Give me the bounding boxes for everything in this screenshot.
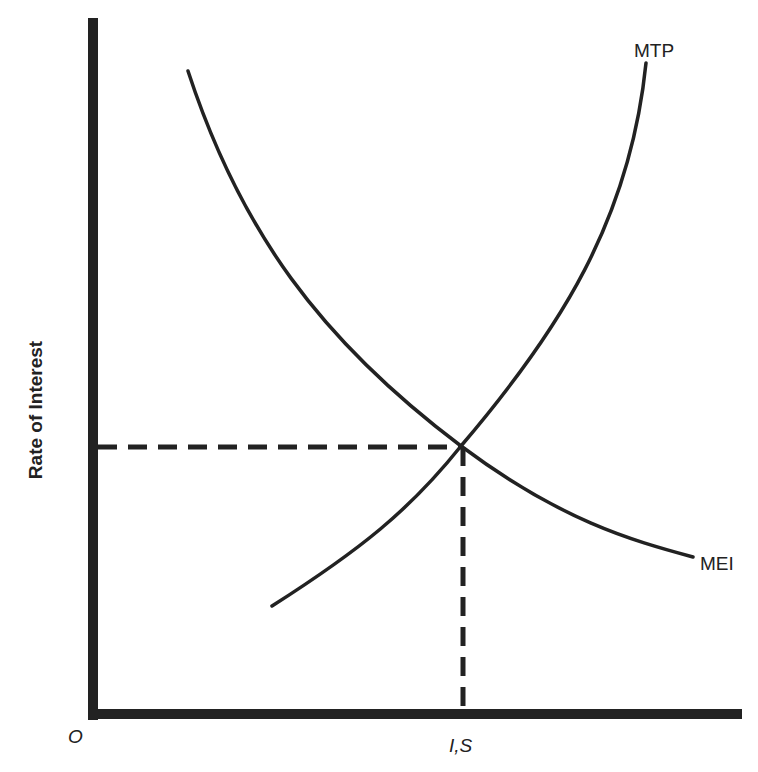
y-axis-label: Rate of Interest — [25, 340, 46, 479]
origin-label: O — [68, 726, 83, 747]
interest-rate-diagram: MTP MEI O I,S Rate of Interest — [0, 0, 758, 772]
mei-label: MEI — [700, 553, 734, 574]
equilibrium-quantity-label: I,S — [449, 735, 473, 756]
mei-curve — [188, 71, 693, 557]
mtp-label: MTP — [634, 40, 674, 61]
mtp-curve — [272, 63, 646, 606]
